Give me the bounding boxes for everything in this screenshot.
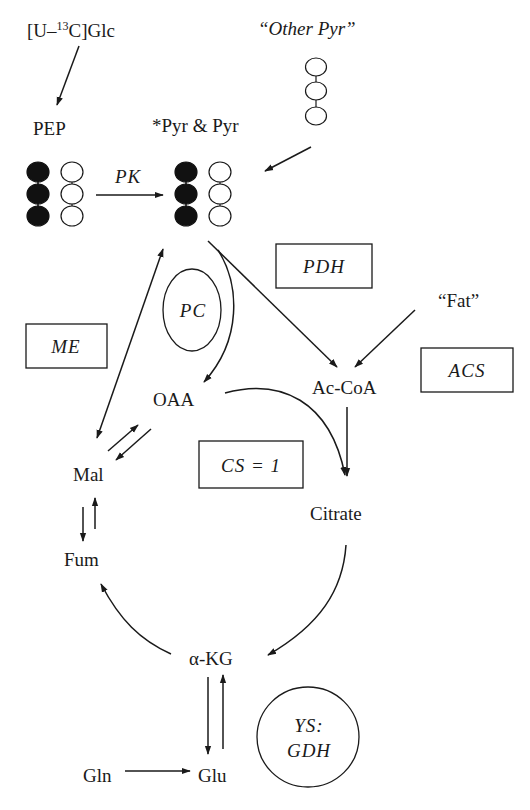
svg-text:YS:: YS: <box>294 715 323 736</box>
metabolite-citrate: Citrate <box>310 503 362 524</box>
metabolite-fat: “Fat” <box>438 290 479 311</box>
svg-text:CS = 1: CS = 1 <box>221 455 281 476</box>
svg-text:ME: ME <box>50 336 80 357</box>
enzyme-cs-box: CS = 1 <box>199 441 303 488</box>
metabolite-pyruvate: *Pyr & Pyr <box>152 115 239 136</box>
carbon-chain-pyruvate-unlabeled <box>209 162 231 226</box>
arrow-citrate-to-akg <box>268 545 346 655</box>
metabolite-fumarate: Fum <box>64 549 99 570</box>
arrow-akg-to-fum <box>101 584 171 654</box>
arrow-glc-to-pep <box>57 46 79 105</box>
metabolite-malate: Mal <box>73 464 104 485</box>
metabolite-glucose: [U–13C]Glc <box>27 19 115 41</box>
enzyme-acs-box: ACS <box>421 348 513 392</box>
svg-text:GDH: GDH <box>287 740 331 761</box>
metabolite-pep: PEP <box>33 118 66 139</box>
enzyme-ys-gdh-circle: YS: GDH <box>257 687 359 787</box>
arrow-oaa-to-mal <box>116 429 151 460</box>
enzyme-pdh-box: PDH <box>276 244 372 288</box>
carbon-chain-pyruvate-labeled <box>175 162 197 226</box>
carbon-chain-pep-unlabeled <box>61 162 83 226</box>
svg-text:PC: PC <box>179 300 206 321</box>
arrow-fat-to-accoa <box>355 310 415 367</box>
metabolite-glutamate: Glu <box>198 765 227 786</box>
svg-text:[U–13C]Glc: [U–13C]Glc <box>27 19 115 41</box>
metabolite-alpha-ketoglutarate: α-KG <box>189 648 233 669</box>
metabolite-acetyl-coa: Ac-CoA <box>312 377 377 398</box>
pathway-diagram: [U–13C]Glc “Other Pyr” PEP *Pyr & Pyr “F… <box>0 0 530 810</box>
arrow-other-pyr-to-pyr <box>265 147 311 171</box>
svg-text:ACS: ACS <box>447 360 486 381</box>
arrow-mal-to-oaa <box>108 425 138 451</box>
enzyme-me-box: ME <box>26 324 107 368</box>
enzyme-pk-label: PK <box>114 166 142 187</box>
svg-text:PDH: PDH <box>302 256 345 277</box>
arrow-pyr-to-oaa <box>204 250 234 382</box>
carbon-chain-pep-labeled <box>27 162 49 226</box>
metabolite-other-pyruvate: “Other Pyr” <box>258 18 356 39</box>
metabolite-oaa: OAA <box>153 389 194 410</box>
metabolite-glutamine: Gln <box>83 765 112 786</box>
enzyme-pc-ellipse: PC <box>163 269 221 351</box>
carbon-chain-other-pyruvate <box>306 58 327 125</box>
